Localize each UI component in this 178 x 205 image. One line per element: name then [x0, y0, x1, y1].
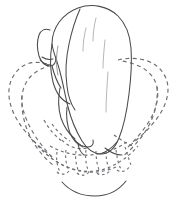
figure-background — [0, 0, 178, 205]
hand-gesture-line-drawing: Closed fist with dashed open-hand overla… — [0, 0, 178, 205]
figure-canvas: Closed fist with dashed open-hand overla… — [0, 0, 178, 205]
